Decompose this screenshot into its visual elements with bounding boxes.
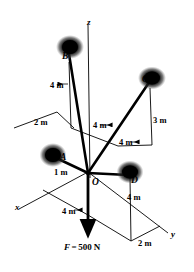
node-label-C: C	[142, 75, 148, 85]
node-label-D: D	[131, 176, 138, 186]
x-axis-line	[19, 172, 88, 209]
construction-line-d-drop	[130, 178, 131, 241]
node-label-A: A	[60, 153, 66, 163]
force-symbol: F	[64, 242, 70, 252]
construction-line-c-drop	[150, 88, 152, 145]
force-label: F=500N	[64, 243, 100, 252]
construction-line-base-to-d	[88, 215, 131, 241]
axis-label-x: x	[15, 203, 20, 212]
force-unit: N	[94, 242, 101, 252]
statics-diagram-figure: z x y B C A D O 4 m 2 m 4 m 3 m 4 m 1 m …	[0, 0, 194, 272]
dimension-label-d-height: 4 m	[127, 193, 140, 202]
dimension-label-a-offset: 1 m	[54, 168, 67, 177]
dimension-ticks	[60, 84, 137, 210]
z-axis-line	[88, 25, 90, 178]
anchor-blobs	[40, 35, 167, 184]
dimension-label-y-offset: 2 m	[138, 239, 151, 248]
dimension-label-c-height: 3 m	[153, 116, 166, 125]
dimension-label-c-reach: 4 m	[119, 138, 132, 147]
node-label-B: B	[62, 52, 68, 62]
axis-label-y: y	[171, 230, 175, 239]
axis-label-z: z	[87, 18, 91, 27]
reference-frame-lines	[14, 25, 168, 241]
node-label-O: O	[92, 178, 99, 188]
diagram-canvas	[0, 0, 194, 272]
anchor-core-A	[45, 148, 61, 162]
support-members	[52, 54, 150, 175]
construction-line-b-offset-right	[57, 112, 74, 128]
dimension-label-b-height: 4 m	[50, 81, 63, 90]
dimension-label-b-reach: 4 m	[93, 121, 106, 130]
force-magnitude: 500	[78, 242, 92, 252]
dimension-label-b-offset: 2 m	[34, 118, 47, 127]
member-OB	[69, 54, 88, 173]
dimension-label-x-reach: 4 m	[62, 207, 75, 216]
force-equals: =	[72, 242, 77, 252]
